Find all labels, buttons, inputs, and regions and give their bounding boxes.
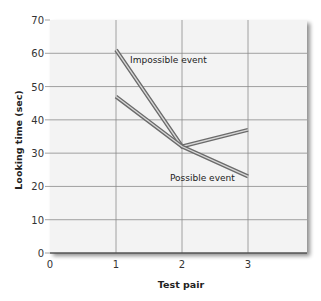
y-tick-label: 60 bbox=[31, 48, 44, 59]
line-chart: 010203040506070 0123 Impossible event Po… bbox=[0, 0, 321, 301]
y-tick-label: 50 bbox=[31, 82, 44, 93]
y-axis-title: Looking time (sec) bbox=[13, 90, 24, 189]
x-axis-ticks: 0123 bbox=[47, 259, 251, 270]
x-tick-label: 1 bbox=[113, 259, 119, 270]
series-label-impossible: Impossible event bbox=[130, 55, 207, 65]
y-tick-label: 20 bbox=[31, 181, 44, 192]
y-tick-label: 70 bbox=[31, 15, 44, 26]
y-tick-label: 40 bbox=[31, 115, 44, 126]
y-tick-label: 0 bbox=[38, 248, 44, 259]
y-axis-ticks: 010203040506070 bbox=[31, 15, 50, 259]
y-tick-label: 10 bbox=[31, 215, 44, 226]
y-tick-label: 30 bbox=[31, 148, 44, 159]
x-tick-label: 0 bbox=[47, 259, 53, 270]
x-tick-label: 2 bbox=[179, 259, 185, 270]
series-label-possible: Possible event bbox=[170, 173, 235, 183]
x-tick-label: 3 bbox=[245, 259, 251, 270]
x-axis-title: Test pair bbox=[158, 279, 205, 290]
